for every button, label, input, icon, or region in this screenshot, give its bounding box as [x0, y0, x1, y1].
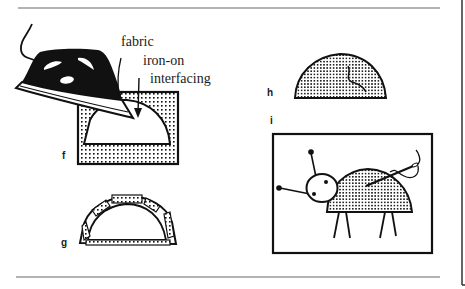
- iron-cord: [21, 24, 34, 60]
- illustration-canvas: [0, 0, 465, 289]
- panel-label-f: f: [62, 151, 65, 161]
- annotation-interfacing-line1: iron-on: [143, 54, 184, 68]
- panel-label-g: g: [61, 238, 67, 248]
- finished-half-circle: [295, 54, 386, 98]
- ladybug-eye: [324, 180, 328, 184]
- ladybug-head: [307, 174, 338, 202]
- panel-g: [80, 195, 176, 245]
- annotation-interfacing-line2: interfacing: [150, 72, 211, 86]
- panel-f: [16, 24, 178, 164]
- panel-i: [273, 134, 432, 253]
- annotation-fabric: fabric: [121, 35, 154, 49]
- panel-label-i: i: [270, 116, 273, 126]
- panel-h: [295, 54, 386, 98]
- antenna-tip: [308, 149, 314, 155]
- panel-label-h: h: [267, 88, 273, 98]
